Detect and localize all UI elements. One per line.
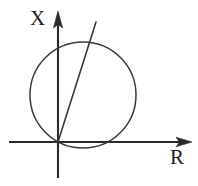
x-axis-label: R [170, 147, 184, 168]
figure-root: X R [0, 0, 198, 186]
locus-circle [30, 42, 136, 148]
chord-line [58, 22, 96, 142]
y-axis-label: X [30, 8, 45, 29]
